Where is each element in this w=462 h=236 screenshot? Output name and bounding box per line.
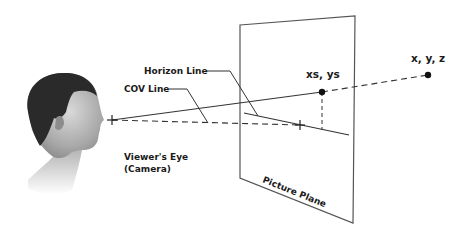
- perspective-diagram: Horizon Line COV Line Viewer's Eye (Came…: [0, 0, 462, 236]
- world-point-dot: [425, 72, 431, 78]
- viewers-eye-label: Viewer's Eye: [124, 152, 188, 162]
- cov-line: [112, 120, 300, 125]
- viewer-head-illustration: [27, 73, 104, 194]
- screen-point-dot: [319, 89, 325, 95]
- horizon-line-label: Horizon Line: [144, 66, 208, 76]
- world-point-label: x, y, z: [411, 52, 445, 64]
- sight-line-solid: [112, 92, 322, 120]
- picture-plane-label: Picture Plane: [261, 175, 327, 210]
- horizon-leader-line: [206, 71, 258, 116]
- eye-cross-icon: [107, 115, 117, 125]
- horizon-line: [244, 113, 349, 135]
- cov-leader-line: [169, 89, 208, 123]
- camera-label: (Camera): [124, 164, 171, 174]
- screen-point-label: xs, ys: [306, 68, 340, 80]
- cov-line-label: COV Line: [124, 84, 169, 94]
- center-cross-icon: [295, 120, 305, 130]
